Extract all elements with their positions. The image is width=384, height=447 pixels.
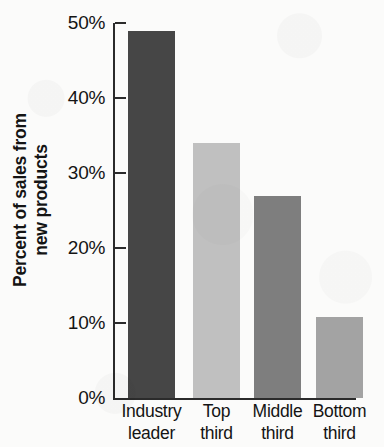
bar xyxy=(193,143,240,398)
plot-area xyxy=(113,18,358,400)
y-axis-tick-label: 0% xyxy=(78,387,105,409)
y-axis-tick-label: 30% xyxy=(68,162,105,184)
bar xyxy=(316,317,363,398)
x-axis-category-labels: IndustryleaderTopthirdMiddlethirdBottomt… xyxy=(113,401,365,447)
x-axis-category-label: Bottomthird xyxy=(297,401,383,444)
y-axis-tick-label: 10% xyxy=(68,312,105,334)
y-axis-tick-labels: 0%10%20%30%40%50% xyxy=(0,0,113,447)
bar xyxy=(128,31,175,399)
bar-chart: Percent of sales from new products 0%10%… xyxy=(0,0,384,447)
y-axis-tick-label: 40% xyxy=(68,87,105,109)
x-axis-category-label-line: third xyxy=(297,423,383,445)
y-axis-tick-label: 20% xyxy=(68,237,105,259)
x-axis-category-label-line: Bottom xyxy=(297,401,383,423)
y-axis-tick-label: 50% xyxy=(68,12,105,34)
bar-series xyxy=(113,18,358,400)
bar xyxy=(254,196,301,399)
